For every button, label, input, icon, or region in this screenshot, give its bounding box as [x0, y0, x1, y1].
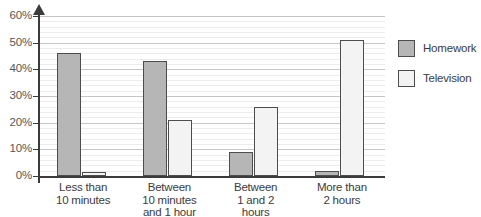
x-axis-label-line: hours — [213, 206, 299, 217]
bar-television-2 — [254, 107, 278, 176]
legend-item-television[interactable]: Television — [398, 63, 481, 93]
legend-label: Homework — [423, 42, 476, 54]
bar-television-1 — [168, 120, 192, 176]
grouped-bar-chart: 0%10%20%30%40%50%60% Less than10 minutes… — [0, 0, 481, 217]
x-axis-label-line: Between — [126, 181, 212, 194]
x-axis-category-labels: Less than10 minutesBetween10 minutesand … — [40, 181, 385, 217]
x-axis-category-label: Less than10 minutes — [40, 181, 126, 206]
legend-swatch-television — [398, 70, 415, 87]
x-axis-category-label: Between1 and 2hours — [213, 181, 299, 217]
y-axis-tick-label: 10% — [10, 144, 32, 156]
y-axis-arrow-icon — [33, 4, 45, 15]
x-axis-label-line: More than — [299, 181, 385, 194]
x-axis-label-line: Between — [213, 181, 299, 194]
x-axis-label-line: and 1 hour — [126, 206, 212, 217]
y-axis-tick-mark — [33, 43, 40, 44]
x-axis-line — [38, 176, 385, 178]
x-axis-label-line: 10 minutes — [126, 194, 212, 207]
chart-legend: HomeworkTelevision — [398, 33, 481, 93]
bar-homework-1 — [143, 61, 167, 176]
legend-item-homework[interactable]: Homework — [398, 33, 481, 63]
x-axis-category-label: More than2 hours — [299, 181, 385, 206]
bars-layer — [40, 16, 385, 176]
x-axis-label-line: 10 minutes — [40, 194, 126, 207]
y-axis-tick-mark — [33, 149, 40, 150]
y-axis-tick-label: 50% — [10, 37, 32, 49]
y-axis-tick-mark — [33, 16, 40, 17]
x-axis-category-label: Between10 minutesand 1 hour — [126, 181, 212, 217]
legend-swatch-homework — [398, 40, 415, 57]
y-axis-tick-label: 40% — [10, 64, 32, 76]
bar-homework-0 — [57, 53, 81, 176]
bar-television-3 — [340, 40, 364, 176]
y-axis-tick-label: 60% — [10, 10, 32, 22]
y-axis-tick-mark — [33, 123, 40, 124]
y-axis-tick-label: 30% — [10, 90, 32, 102]
x-axis-label-line: Less than — [40, 181, 126, 194]
y-axis-tick-labels: 0%10%20%30%40%50%60% — [0, 0, 36, 185]
y-axis-tick-label: 0% — [16, 170, 32, 182]
plot-area — [40, 16, 385, 176]
y-axis-tick-mark — [33, 69, 40, 70]
y-axis-tick-label: 20% — [10, 117, 32, 129]
y-axis-tick-mark — [33, 96, 40, 97]
x-axis-label-line: 2 hours — [299, 194, 385, 207]
legend-label: Television — [423, 72, 472, 84]
x-axis-label-line: 1 and 2 — [213, 194, 299, 207]
bar-homework-2 — [229, 152, 253, 176]
